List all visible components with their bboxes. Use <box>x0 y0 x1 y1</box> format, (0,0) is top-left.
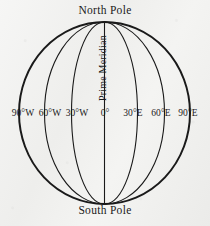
north-pole-label: North Pole <box>0 4 210 16</box>
longitude-label-row: 90°W 60°W 30°W 0° 30°E 60°E 90°E <box>0 106 210 120</box>
longitude-label-30E: 30°E <box>123 106 143 120</box>
south-pole-label: South Pole <box>0 204 210 216</box>
prime-meridian-label: Prime Meridian <box>96 30 110 106</box>
longitude-label-90E: 90°E <box>178 106 198 120</box>
longitude-label-60E: 60°E <box>151 106 171 120</box>
longitude-label-30W: 30°W <box>66 106 89 120</box>
longitude-label-90W: 90°W <box>12 106 35 120</box>
globe-diagram: North Pole South Pole Prime Meridian 90°… <box>0 0 210 226</box>
longitude-label-60W: 60°W <box>39 106 62 120</box>
longitude-label-0: 0° <box>101 106 110 120</box>
